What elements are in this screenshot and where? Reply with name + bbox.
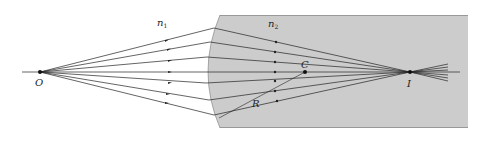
label-C: C xyxy=(301,59,309,70)
medium-n2-region xyxy=(208,15,468,128)
label-n1: n1 xyxy=(157,17,167,29)
incident-rays xyxy=(40,28,214,115)
point-C xyxy=(303,70,307,74)
label-R: R xyxy=(251,98,260,109)
point-I xyxy=(408,70,412,74)
refraction-diagram: n1 n2 O C I R xyxy=(0,0,480,141)
label-O: O xyxy=(35,77,43,88)
point-O xyxy=(38,70,42,74)
